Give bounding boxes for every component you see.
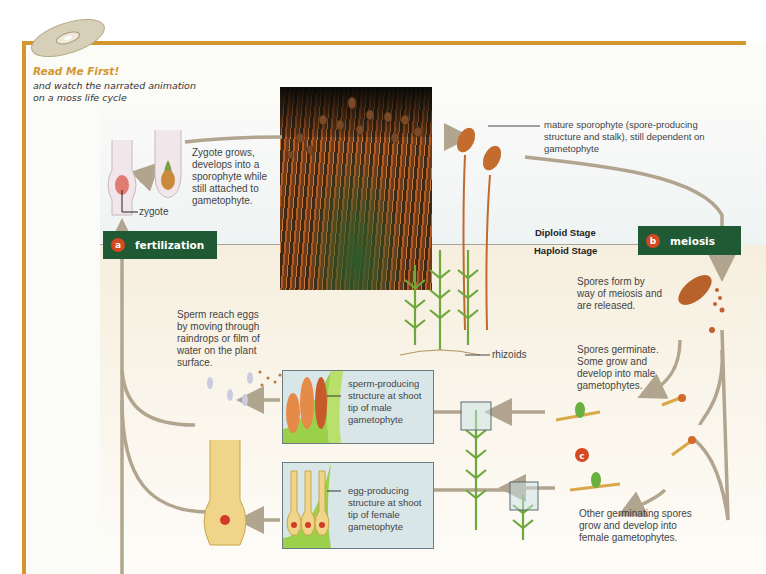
sperm-reach-label: Sperm reach eggs by moving through raind…: [177, 309, 269, 369]
zygote-label: zygote: [139, 206, 168, 218]
svg-text:c: c: [579, 451, 584, 461]
rhizoids-label: rhizoids: [492, 349, 526, 361]
sperm-structure-label: sperm-producing structure at shoot tip o…: [348, 378, 432, 426]
step-a-fertilization: a fertilization: [103, 231, 217, 259]
spores-germinate-label: Spores germinate. Some grow and develop …: [577, 344, 663, 392]
meiosis-label: meiosis: [670, 235, 715, 247]
haploid-stage-label: Haploid Stage: [534, 245, 597, 256]
fertilization-label: fertilization: [135, 239, 204, 251]
step-b-meiosis: b meiosis: [638, 226, 741, 255]
other-spores-label: Other germinating spores grow and develo…: [579, 508, 699, 544]
mature-sporophyte-label: mature sporophyte (spore-producing struc…: [544, 119, 724, 155]
spores-form-label: Spores form by way of meiosis and are re…: [577, 276, 663, 312]
egg-structure-label: egg-producing structure at shoot tip of …: [348, 485, 432, 533]
step-badge-a: a: [111, 238, 125, 252]
step-badge-b: b: [646, 234, 660, 248]
zygote-grows-label: Zygote grows, develops into a sporophyte…: [192, 147, 282, 207]
diploid-stage-label: Diploid Stage: [535, 227, 596, 238]
